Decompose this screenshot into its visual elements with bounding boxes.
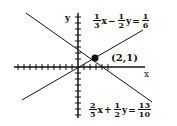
intersection-label: (2,1) — [111, 53, 138, 63]
fraction: 1310 — [138, 101, 151, 118]
fraction: 16 — [142, 12, 150, 29]
x-axis-label: x — [144, 70, 149, 79]
intersection-point — [92, 55, 99, 62]
fraction: 12 — [118, 12, 126, 29]
line-1 — [22, 30, 143, 100]
y-axis-label: y — [65, 14, 70, 23]
equation-line-2: 25 x + 12 y = 1310 — [88, 101, 152, 118]
fraction: 25 — [89, 101, 97, 118]
fraction: 13 — [93, 12, 101, 29]
equation-line-1: 13 x − 12 y = 16 — [92, 12, 150, 29]
fraction: 12 — [114, 101, 122, 118]
